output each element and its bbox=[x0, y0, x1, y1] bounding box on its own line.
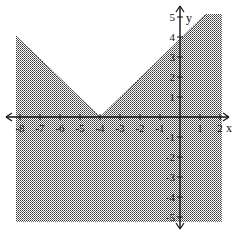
chart-canvas: -8-7-6-5-4-3-2-112 54321-1-2-3-4-5 x y bbox=[0, 0, 236, 234]
y-tick-label: -5 bbox=[166, 211, 176, 223]
y-tick-label: 1 bbox=[170, 91, 176, 103]
inequality-graph: -8-7-6-5-4-3-2-112 54321-1-2-3-4-5 x y bbox=[0, 0, 236, 234]
x-tick-label: -8 bbox=[15, 122, 25, 134]
y-tick-label: -4 bbox=[166, 191, 176, 203]
x-tick-label: -2 bbox=[135, 122, 144, 134]
y-tick-label: -3 bbox=[166, 171, 176, 183]
x-tick-label: -3 bbox=[115, 122, 125, 134]
x-tick-label: -6 bbox=[55, 122, 65, 134]
x-tick-label: -5 bbox=[75, 122, 85, 134]
y-tick-label: -1 bbox=[166, 131, 175, 143]
y-tick-label: 2 bbox=[170, 71, 176, 83]
x-tick-label: 2 bbox=[217, 122, 223, 134]
x-tick-label: 1 bbox=[197, 122, 203, 134]
shaded-region bbox=[16, 14, 222, 222]
y-tick-label: 4 bbox=[170, 31, 176, 43]
x-tick-label: -4 bbox=[95, 122, 105, 134]
y-tick-label: 5 bbox=[170, 11, 176, 23]
x-tick-label: -1 bbox=[155, 122, 164, 134]
x-axis-label: x bbox=[226, 121, 232, 135]
x-tick-label: -7 bbox=[35, 122, 45, 134]
y-tick-label: 3 bbox=[170, 51, 176, 63]
y-axis-label: y bbox=[186, 11, 192, 25]
y-tick-label: -2 bbox=[166, 151, 175, 163]
